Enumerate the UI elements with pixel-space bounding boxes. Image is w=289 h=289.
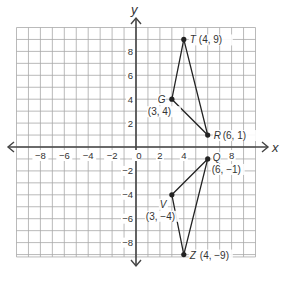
y-tick-label: 6 <box>128 70 133 81</box>
y-tick-label: −6 <box>122 213 133 224</box>
vertex-label-z: Z(4, −9) <box>189 250 233 261</box>
x-tick-label: −6 <box>59 150 70 161</box>
vertex-name: G <box>158 94 166 105</box>
vertex-coordinates: (4, 9) <box>199 34 222 45</box>
vertex-label-r: R(6, 1) <box>213 130 257 141</box>
vertex-coordinates: (6, 1) <box>223 130 246 141</box>
x-tick-label: −4 <box>83 150 94 161</box>
x-tick-label: 8 <box>229 150 234 161</box>
vertex-coordinates: (4, −9) <box>200 250 229 261</box>
x-tick-label: 2 <box>157 150 162 161</box>
y-tick-label: −8 <box>122 237 133 248</box>
x-tick-label: −8 <box>35 150 46 161</box>
vertex-coordinates: (3, 4) <box>148 106 171 117</box>
vertex-label-g: G(3, 4) <box>147 94 181 117</box>
y-axis-label: y <box>130 2 139 17</box>
x-axis-label: x <box>271 140 279 155</box>
vertex-name: T <box>190 34 197 45</box>
vertex-point-g <box>169 97 174 102</box>
x-tick-label: 0 <box>136 150 141 161</box>
vertex-name: Z <box>189 250 197 261</box>
y-tick-label: 8 <box>128 46 133 57</box>
vertex-label-t: T(4, 9) <box>189 34 233 45</box>
vertex-point-v <box>169 192 174 197</box>
x-tick-label: 4 <box>181 150 186 161</box>
vertex-name: Q <box>213 152 221 163</box>
vertex-coordinates: (3, −4) <box>146 211 175 222</box>
vertex-coordinates: (6, −1) <box>212 164 241 175</box>
vertex-name: R <box>214 130 221 141</box>
y-tick-label: 4 <box>128 94 133 105</box>
y-tick-label: −2 <box>122 165 133 176</box>
coordinate-plane-figure: xy −8−6−4−202488642−2−4−6−8 T(4, 9)G(3, … <box>0 0 289 289</box>
vertex-point-r <box>205 132 210 137</box>
x-tick-label: −2 <box>107 150 118 161</box>
vertex-point-z <box>181 252 186 257</box>
y-tick-label: −4 <box>122 189 133 200</box>
coordinate-plane: xy −8−6−4−202488642−2−4−6−8 T(4, 9)G(3, … <box>0 0 289 289</box>
vertex-point-t <box>181 37 186 42</box>
vertex-point-q <box>205 156 210 161</box>
y-tick-label: 2 <box>128 118 133 129</box>
